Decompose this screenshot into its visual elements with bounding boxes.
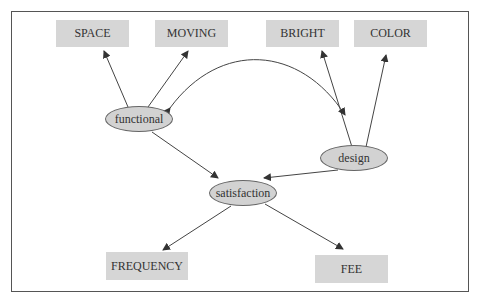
node-color: COLOR xyxy=(354,20,427,47)
edge-functional-moving xyxy=(148,51,188,107)
edge-satisfaction-fee xyxy=(265,204,343,249)
node-frequency: FREQUENCY xyxy=(106,252,188,280)
node-space: SPACE xyxy=(56,20,129,47)
edge-design-satisfaction xyxy=(264,170,338,178)
edge-design-color xyxy=(366,55,386,147)
edge-design-bright xyxy=(322,51,352,147)
node-design: design xyxy=(320,145,388,171)
node-functional: functional xyxy=(105,106,173,132)
edge-functional-space xyxy=(104,51,128,107)
node-satisfaction: satisfaction xyxy=(209,180,277,206)
node-bright: BRIGHT xyxy=(266,20,339,47)
node-moving: MOVING xyxy=(155,20,228,47)
edge-satisfaction-frequency xyxy=(163,206,231,250)
node-fee: FEE xyxy=(315,255,388,283)
edge-functional-design xyxy=(170,60,345,115)
edge-functional-satisfaction xyxy=(152,132,218,178)
